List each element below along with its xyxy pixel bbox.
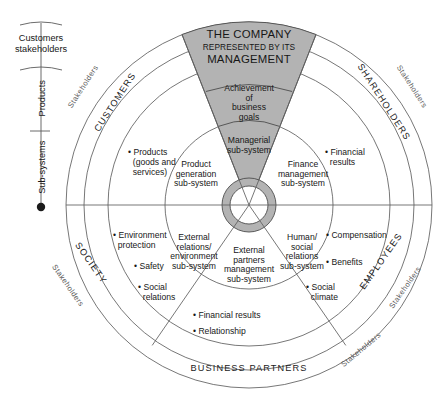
axis-tick-customers-stakeholders: Customers stakeholders bbox=[2, 33, 80, 54]
sector-business-partners-item-0: • Financial results bbox=[193, 311, 303, 321]
gray-management-wedge bbox=[182, 22, 316, 205]
wheel-svg bbox=[0, 0, 446, 414]
sector-shareholders-item-0: • Financial results bbox=[325, 148, 409, 168]
sector-society-item-1: • Safety bbox=[134, 262, 194, 272]
sector-society-item-0: • Environment protection bbox=[113, 231, 205, 251]
diagram-canvas: Customers stakeholders Products Sub-syst… bbox=[0, 0, 446, 414]
sector-business-partners-label: BUSINESS PARTNERS bbox=[179, 363, 319, 373]
sector-society-item-2: • Social relations bbox=[138, 283, 208, 303]
sector-business-partners-item-1: • Relationship bbox=[193, 327, 293, 337]
sector-customers-item-0: • Products (goods and services) bbox=[128, 148, 208, 177]
axis-tick-sub-systems: Sub-systems bbox=[37, 118, 48, 216]
